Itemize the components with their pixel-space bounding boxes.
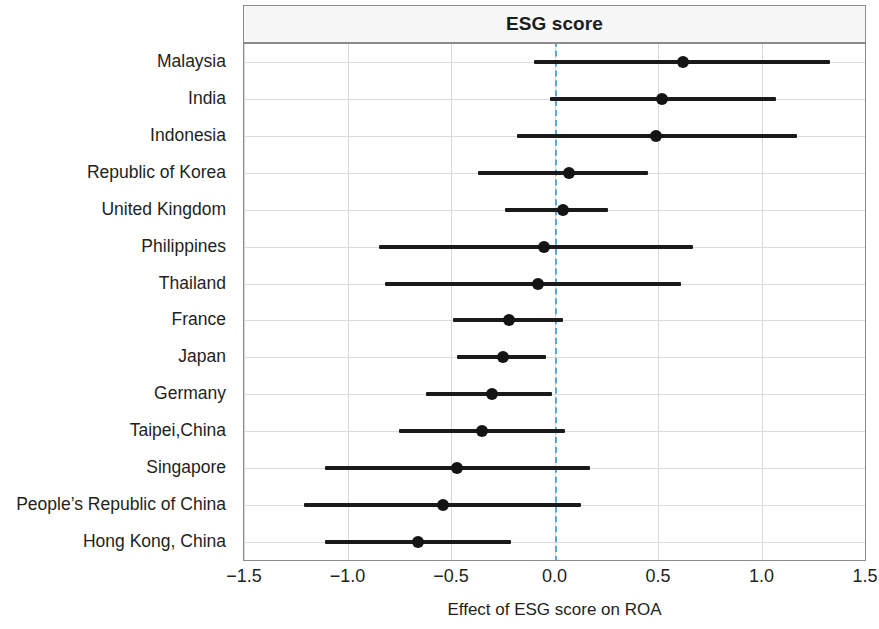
- y-axis-label: Philippines: [141, 237, 226, 255]
- y-axis-label: People’s Republic of China: [16, 495, 226, 513]
- y-axis-label: Republic of Korea: [87, 163, 226, 181]
- point-estimate-marker: [503, 314, 515, 326]
- x-tick-label: 1.5: [852, 566, 877, 587]
- point-estimate-marker: [437, 499, 449, 511]
- y-axis-label: India: [188, 89, 226, 107]
- chart-title-box: ESG score: [243, 5, 866, 43]
- y-axis-label: Malaysia: [157, 52, 226, 70]
- point-estimate-marker: [557, 204, 569, 216]
- forest-row[interactable]: [244, 81, 865, 118]
- point-estimate-marker: [650, 130, 662, 142]
- y-axis-label: Hong Kong, China: [83, 532, 226, 550]
- forest-row[interactable]: [244, 486, 865, 523]
- point-estimate-marker: [412, 536, 424, 548]
- point-estimate-marker: [538, 241, 550, 253]
- x-tick-label: 0.0: [542, 566, 567, 587]
- confidence-interval-line: [379, 245, 694, 249]
- plot-inner: [244, 44, 865, 560]
- point-estimate-marker: [486, 388, 498, 400]
- point-estimate-marker: [476, 425, 488, 437]
- forest-plot-figure: ESG score MalaysiaIndiaIndonesiaRepublic…: [0, 0, 879, 629]
- forest-row[interactable]: [244, 302, 865, 339]
- forest-row[interactable]: [244, 228, 865, 265]
- point-estimate-marker: [532, 278, 544, 290]
- forest-row[interactable]: [244, 191, 865, 228]
- y-axis-label: France: [172, 310, 226, 328]
- point-estimate-marker: [451, 462, 463, 474]
- x-tick-label: −1.5: [226, 566, 262, 587]
- forest-row[interactable]: [244, 376, 865, 413]
- x-tick-label: 1.0: [749, 566, 774, 587]
- y-axis-label: Taipei,China: [130, 421, 226, 439]
- x-tick-label: 0.5: [645, 566, 670, 587]
- forest-row[interactable]: [244, 118, 865, 155]
- y-axis-label: Thailand: [159, 274, 226, 292]
- y-axis-label: Singapore: [146, 458, 226, 476]
- x-axis-ticks: −1.5−1.0−0.50.00.51.01.5: [0, 566, 879, 592]
- y-axis-label: Germany: [154, 384, 226, 402]
- y-axis-label: Indonesia: [150, 126, 226, 144]
- forest-row[interactable]: [244, 339, 865, 376]
- x-gridline: [865, 44, 866, 560]
- forest-row[interactable]: [244, 523, 865, 560]
- plot-area: [243, 43, 866, 561]
- y-axis-label: United Kingdom: [101, 200, 226, 218]
- point-estimate-marker: [497, 351, 509, 363]
- y-axis-label: Japan: [178, 347, 226, 365]
- forest-row[interactable]: [244, 44, 865, 81]
- forest-row[interactable]: [244, 449, 865, 486]
- point-estimate-marker: [677, 56, 689, 68]
- point-estimate-marker: [563, 167, 575, 179]
- point-estimate-marker: [656, 93, 668, 105]
- x-axis-title: Effect of ESG score on ROA: [243, 600, 866, 620]
- forest-row[interactable]: [244, 155, 865, 192]
- x-tick-label: −1.0: [330, 566, 366, 587]
- forest-row[interactable]: [244, 413, 865, 450]
- forest-row[interactable]: [244, 265, 865, 302]
- x-tick-label: −0.5: [433, 566, 469, 587]
- chart-title: ESG score: [506, 13, 603, 35]
- y-axis-labels: MalaysiaIndiaIndonesiaRepublic of KoreaU…: [0, 43, 235, 561]
